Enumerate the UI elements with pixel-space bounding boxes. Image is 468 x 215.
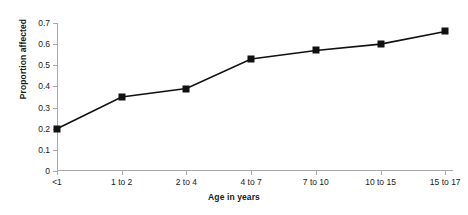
data-point (312, 47, 319, 54)
x-tick-label: 7 to 10 (303, 177, 329, 187)
x-tick-label: 10 to 15 (365, 177, 396, 187)
line-chart: Proportion affected 00.10.20.30.40.50.60… (0, 0, 468, 215)
data-point (54, 125, 61, 132)
y-tick-label: 0.4 (38, 81, 50, 91)
x-tick-label: <1 (52, 177, 62, 187)
data-point (442, 28, 449, 35)
y-tick-label: 0 (45, 166, 50, 176)
data-point (377, 41, 384, 48)
y-axis-title: Proportion affected (18, 0, 28, 129)
data-point (183, 85, 190, 92)
data-point (118, 94, 125, 101)
x-tick-label: 4 to 7 (240, 177, 261, 187)
y-tick-label: 0.5 (38, 60, 50, 70)
x-tick-label: 15 to 17 (430, 177, 461, 187)
y-tick-label: 0.6 (38, 39, 50, 49)
plot-area: 00.10.20.30.40.50.60.7 <11 to 22 to 44 t… (57, 23, 453, 171)
x-tick-label: 2 to 4 (176, 177, 197, 187)
y-tick-label: 0.3 (38, 103, 50, 113)
x-axis-title: Age in years (0, 192, 468, 202)
x-tick-label: 1 to 2 (111, 177, 132, 187)
data-point (248, 55, 255, 62)
series-line (57, 23, 453, 171)
y-tick-label: 0.7 (38, 18, 50, 28)
y-tick-label: 0.1 (38, 145, 50, 155)
y-tick-label: 0.2 (38, 124, 50, 134)
